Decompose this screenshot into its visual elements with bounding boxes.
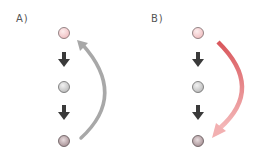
feedback-arc-b [218, 42, 242, 128]
node-a-bottom [59, 136, 70, 147]
diagram-canvas [0, 0, 263, 159]
down-arrow-icon [192, 105, 204, 120]
node-b-top [193, 28, 204, 39]
panel-b [192, 28, 242, 147]
node-a-middle [59, 82, 70, 93]
down-arrow-icon [58, 52, 70, 67]
down-arrow-icon [58, 105, 70, 120]
feedback-arc-a [81, 44, 105, 138]
node-a-top [59, 28, 70, 39]
node-b-middle [193, 82, 204, 93]
down-arrow-icon [192, 52, 204, 67]
panel-a [58, 28, 105, 147]
node-b-bottom [193, 136, 204, 147]
